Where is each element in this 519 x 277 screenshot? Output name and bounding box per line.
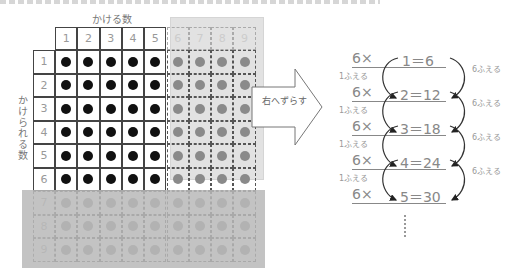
gray-dot bbox=[173, 127, 183, 137]
grid-cell bbox=[100, 121, 122, 145]
grid-cell bbox=[100, 97, 122, 121]
gray-dot bbox=[240, 174, 250, 184]
black-dot bbox=[83, 80, 93, 90]
black-dot bbox=[61, 127, 71, 137]
grid-cell bbox=[77, 97, 99, 121]
row-header: 1 bbox=[33, 50, 55, 74]
black-dot bbox=[83, 127, 93, 137]
grid-cell bbox=[122, 50, 144, 74]
gray-dot bbox=[217, 80, 227, 90]
gray-dot bbox=[217, 174, 227, 184]
gray-dot bbox=[217, 104, 227, 114]
grid-cell bbox=[189, 97, 211, 121]
black-dot bbox=[106, 104, 116, 114]
gray-dot bbox=[195, 57, 205, 67]
grid-cell bbox=[189, 50, 211, 74]
gray-dot bbox=[240, 80, 250, 90]
black-dot bbox=[150, 174, 160, 184]
gray-dot bbox=[195, 104, 205, 114]
black-dot bbox=[106, 174, 116, 184]
gray-dot bbox=[240, 127, 250, 137]
grid-cell bbox=[167, 121, 189, 145]
grid-cell bbox=[100, 144, 122, 168]
black-dot bbox=[150, 151, 160, 161]
grid-cell bbox=[167, 97, 189, 121]
row-header: 5 bbox=[33, 144, 55, 168]
grid-cell bbox=[233, 168, 255, 192]
column-header: 9 bbox=[233, 27, 255, 50]
grid-cell bbox=[167, 144, 189, 168]
black-dot bbox=[128, 57, 138, 67]
grid-cell bbox=[211, 74, 233, 98]
row-header: 4 bbox=[33, 121, 55, 145]
column-header: 2 bbox=[77, 27, 99, 50]
black-dot bbox=[61, 151, 71, 161]
black-dot bbox=[83, 151, 93, 161]
black-dot bbox=[106, 127, 116, 137]
grid-cell bbox=[100, 50, 122, 74]
grid-cell bbox=[55, 144, 77, 168]
curved-arrows bbox=[340, 50, 519, 220]
black-dot bbox=[150, 80, 160, 90]
gray-dot bbox=[240, 57, 250, 67]
black-dot bbox=[61, 104, 71, 114]
grid-cell bbox=[189, 74, 211, 98]
grid-cell bbox=[55, 121, 77, 145]
gray-dot bbox=[173, 80, 183, 90]
grid-cell bbox=[122, 74, 144, 98]
gray-dot bbox=[173, 57, 183, 67]
black-dot bbox=[150, 57, 160, 67]
column-header: 6 bbox=[167, 27, 189, 50]
gray-dot bbox=[173, 104, 183, 114]
grid-cell bbox=[55, 74, 77, 98]
grid-cell bbox=[167, 50, 189, 74]
grid-cell bbox=[233, 144, 255, 168]
black-dot bbox=[150, 127, 160, 137]
black-dot bbox=[83, 57, 93, 67]
column-header: 7 bbox=[189, 27, 211, 50]
grid-cell bbox=[77, 50, 99, 74]
grid-cell bbox=[100, 168, 122, 192]
gray-dot bbox=[173, 151, 183, 161]
shift-right-label: 右へずらす bbox=[262, 94, 307, 107]
row-header: 6 bbox=[33, 168, 55, 192]
gray-dot bbox=[217, 57, 227, 67]
gray-dot bbox=[217, 127, 227, 137]
gray-dot bbox=[240, 104, 250, 114]
grid-cell bbox=[122, 97, 144, 121]
grid-cell bbox=[122, 168, 144, 192]
gray-dot bbox=[195, 174, 205, 184]
grid-cell bbox=[144, 50, 166, 74]
gray-dot bbox=[217, 151, 227, 161]
black-dot bbox=[83, 174, 93, 184]
column-header: 3 bbox=[100, 27, 122, 50]
grid-cell bbox=[167, 74, 189, 98]
gray-dot bbox=[195, 127, 205, 137]
black-dot bbox=[106, 80, 116, 90]
grid-cell bbox=[211, 121, 233, 145]
black-dot bbox=[128, 127, 138, 137]
black-dot bbox=[128, 151, 138, 161]
gray-dot bbox=[173, 174, 183, 184]
gray-dot bbox=[240, 151, 250, 161]
grid-cell bbox=[144, 168, 166, 192]
grid-cell bbox=[144, 121, 166, 145]
black-dot bbox=[83, 104, 93, 114]
black-dot bbox=[61, 80, 71, 90]
row-header: 2 bbox=[33, 74, 55, 98]
black-dot bbox=[128, 174, 138, 184]
black-dot bbox=[128, 80, 138, 90]
black-dot bbox=[106, 151, 116, 161]
grid-cell bbox=[144, 97, 166, 121]
row-axis-label: かけられる数 bbox=[14, 95, 29, 161]
grid-cell bbox=[211, 97, 233, 121]
grid-cell bbox=[77, 121, 99, 145]
grid-cell bbox=[55, 50, 77, 74]
column-header: 8 bbox=[211, 27, 233, 50]
grid-cell bbox=[77, 168, 99, 192]
grid-cell bbox=[189, 121, 211, 145]
grid-cell bbox=[100, 74, 122, 98]
grid-cell bbox=[211, 50, 233, 74]
column-header: 5 bbox=[144, 27, 166, 50]
column-header: 1 bbox=[55, 27, 77, 50]
